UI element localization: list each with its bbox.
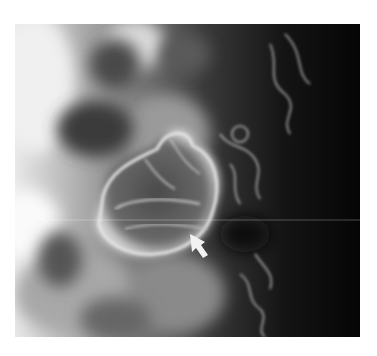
radiograph-image	[15, 24, 360, 337]
radiograph-svg	[15, 24, 360, 337]
